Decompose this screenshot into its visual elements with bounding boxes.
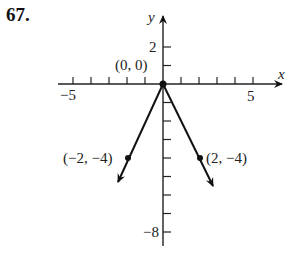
y-ticks: [163, 47, 171, 232]
right-branch: [163, 84, 213, 186]
graph: y x 2 (0, 0) −5 5 (−2, −4) (2, −4) −8: [0, 0, 297, 253]
y-tick-label-neg8: −8: [143, 224, 159, 240]
y-tick-label-2: 2: [149, 39, 157, 55]
x-tick-label-min: −5: [60, 87, 76, 103]
y-axis-label: y: [146, 9, 155, 25]
right-point-label: (2, −4): [206, 150, 247, 167]
left-point: [125, 155, 131, 161]
origin-label: (0, 0): [115, 57, 148, 74]
x-tick-label-max: 5: [247, 88, 255, 104]
x-axis-label: x: [277, 66, 285, 82]
left-point-label: (−2, −4): [63, 150, 112, 167]
origin-point: [160, 81, 167, 88]
right-point: [197, 155, 203, 161]
left-branch: [118, 84, 163, 182]
